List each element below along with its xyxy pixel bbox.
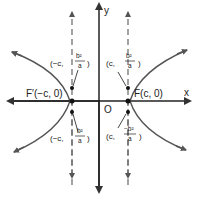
focus-left-label: F′(−c, 0) xyxy=(26,88,63,99)
lower-right-num: −b² xyxy=(124,125,134,132)
focus-right-label: F(c, 0) xyxy=(134,88,163,99)
lower-left-label-prefix: (−c, xyxy=(50,134,64,143)
upper-left-num: b² xyxy=(76,52,83,59)
lower-right-close: ) xyxy=(139,132,142,141)
lower-right-den: a xyxy=(128,135,132,142)
hyperbola-diagram: y x O F′(−c, 0) F(c, 0) (−c, b² a ) (c, … xyxy=(0,0,197,203)
focus-left-point xyxy=(70,99,75,104)
upper-right-label-prefix: (c, xyxy=(106,59,115,68)
point-upper-left xyxy=(70,86,74,90)
upper-right-num: b² xyxy=(126,52,133,59)
x-axis-label: x xyxy=(184,87,189,98)
upper-right-close: ) xyxy=(138,59,141,68)
y-axis-label: y xyxy=(104,5,109,16)
point-lower-right xyxy=(126,110,130,114)
upper-left-label-prefix: (−c, xyxy=(50,59,64,68)
upper-left-den: a xyxy=(78,62,82,69)
lower-left-num: b² xyxy=(77,127,84,134)
lower-right-label-prefix: (c, xyxy=(106,132,115,141)
upper-right-den: a xyxy=(128,62,132,69)
lower-left-close: ) xyxy=(87,134,90,143)
upper-left-close: ) xyxy=(87,59,90,68)
focus-right-point xyxy=(126,99,131,104)
origin-label: O xyxy=(104,104,112,115)
point-upper-right xyxy=(126,86,130,90)
lower-left-den: a xyxy=(78,137,82,144)
point-lower-left xyxy=(70,110,74,114)
